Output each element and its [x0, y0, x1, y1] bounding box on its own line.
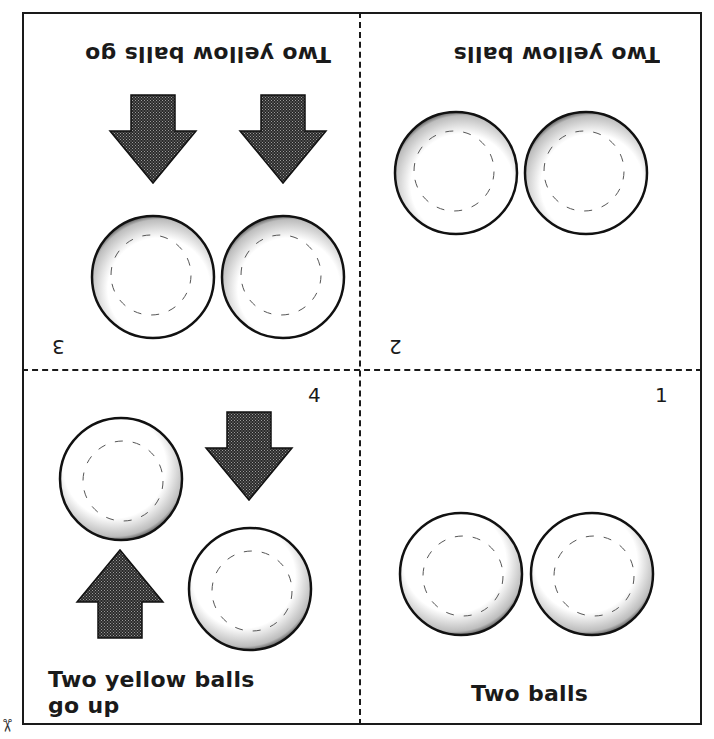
scissors-icon: ✂	[0, 718, 18, 733]
panel-caption-line1: Two yellow balls	[48, 667, 255, 693]
panel-caption-line2: go up	[48, 693, 119, 719]
ball-icon	[361, 14, 700, 369]
ball-icon	[361, 371, 700, 724]
panel-1: 1 Two balls	[361, 371, 700, 724]
ball-icon	[24, 14, 359, 369]
panel-caption: Two yellow balls	[453, 41, 660, 67]
panel-2: 2 Two yellow balls	[361, 14, 700, 369]
panel-caption: Two yellow balls go	[85, 41, 331, 67]
panel-3: 3 Two yellow balls go	[24, 14, 359, 369]
panel-4: 4 Two yellow balls go up	[24, 371, 359, 724]
panel-caption: Two balls	[471, 681, 588, 707]
